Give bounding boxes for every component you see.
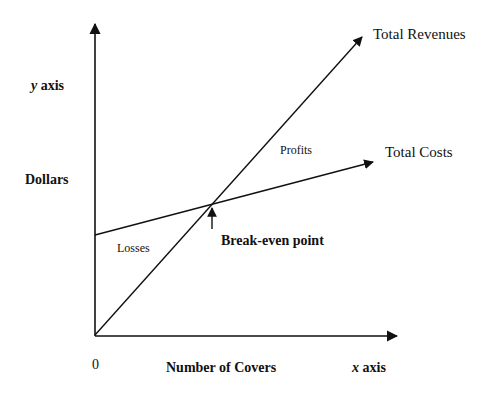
total-revenues-label: Total Revenues xyxy=(373,26,466,43)
total-costs-label: Total Costs xyxy=(385,144,453,161)
total-revenues-line xyxy=(95,37,362,335)
break-even-label: Break-even point xyxy=(221,233,324,249)
break-even-chart xyxy=(0,0,498,396)
total-costs-line xyxy=(95,162,373,235)
x-var: x xyxy=(352,360,359,375)
profits-label: Profits xyxy=(280,143,312,158)
y-axis-label-top: y axis xyxy=(31,78,64,94)
x-axis-label-right: x axis xyxy=(352,360,386,376)
x-axis-suffix: axis xyxy=(359,360,386,375)
origin-label: 0 xyxy=(92,357,99,373)
y-axis-label: Dollars xyxy=(25,172,69,188)
losses-label: Losses xyxy=(117,241,150,256)
y-axis-suffix: axis xyxy=(37,78,64,93)
x-axis-label: Number of Covers xyxy=(166,360,276,376)
